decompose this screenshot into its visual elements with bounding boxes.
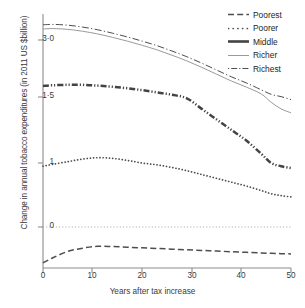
dash-dot-line-key xyxy=(228,64,249,73)
legend: Poorest Poorer Middle Richer Richest xyxy=(228,8,304,76)
x-tick-label-40: 40 xyxy=(226,272,256,280)
x-tick-label-30: 30 xyxy=(177,272,207,280)
legend-label-poorest: Poorest xyxy=(253,11,282,19)
legend-label-richer: Richer xyxy=(253,51,277,59)
legend-item-richest[interactable]: Richest xyxy=(228,62,304,76)
x-tick-label-0: 0 xyxy=(28,272,58,280)
series-path-poorer xyxy=(43,158,291,197)
x-tick-label-50: 50 xyxy=(276,272,305,280)
series-path-middle xyxy=(43,85,291,168)
legend-item-richer[interactable]: Richer xyxy=(228,49,304,63)
y-axis-title: Change in annual tobacco expenditures (i… xyxy=(20,3,29,243)
x-tick-label-10: 10 xyxy=(77,272,107,280)
thick-dash-dot-dot-line-key xyxy=(228,37,249,46)
x-tick-label-20: 20 xyxy=(127,272,157,280)
legend-item-poorest[interactable]: Poorest xyxy=(228,8,304,22)
legend-label-poorer: Poorer xyxy=(253,24,278,32)
x-axis-title: Years after tax increase xyxy=(0,287,305,296)
legend-label-middle: Middle xyxy=(253,38,278,46)
legend-item-middle[interactable]: Middle xyxy=(228,35,304,49)
series-path-poorest xyxy=(43,246,291,263)
chart-figure: 3·0 1·5 1 0 0 10 20 30 40 50 Change in a… xyxy=(0,0,305,308)
dashed-line-key xyxy=(228,10,249,19)
legend-item-poorer[interactable]: Poorer xyxy=(228,22,304,36)
dotted-line-key xyxy=(228,24,249,33)
legend-label-richest: Richest xyxy=(253,65,281,73)
thin-solid-line-key xyxy=(228,51,249,60)
